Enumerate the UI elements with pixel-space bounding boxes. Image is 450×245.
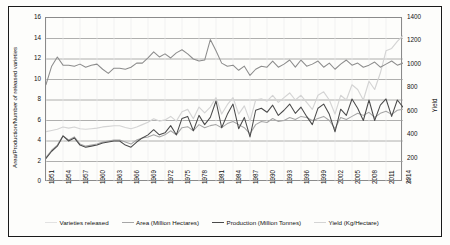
y-tick-label-right: 400 [407,130,429,137]
y-tick-label-right: 200 [407,154,429,161]
x-tick-label: 2014 [405,170,412,184]
y-axis-label-right: Yield [428,75,442,135]
legend-label: Area (Million Hectares) [136,220,199,226]
series-line [46,40,403,85]
y-tick-label-left: 2 [24,157,41,164]
legend-item[interactable]: Yield (Kg/Hectare) [314,220,379,226]
y-tick-label-left: 14 [24,34,41,41]
legend-item[interactable]: Area (Million Hectares) [122,220,199,226]
chart-legend: Varieties releasedArea (Million Hectares… [45,216,415,230]
legend-label: Production (Million Tonnes) [227,220,302,226]
y-tick-label-right: 1200 [407,36,429,43]
y-tick-label-right: 1000 [407,60,429,67]
legend-item[interactable]: Varieties released [45,220,109,226]
y-tick-label-left: 0 [24,177,41,184]
plot-svg [46,18,403,182]
y-tick-label-right: 800 [407,83,429,90]
y-tick-label-left: 16 [24,13,41,20]
y-tick-label-right: 600 [407,107,429,114]
legend-line-icon [45,222,57,223]
plot-area [45,17,402,181]
y-tick-label-left: 6 [24,116,41,123]
series-line [46,99,403,158]
legend-item[interactable]: Production (Million Tonnes) [212,220,301,226]
y-axis-label-right-text: Yield [431,98,438,112]
y-axis-label-left-text: Area/Production/Number of released varie… [11,47,18,168]
legend-line-icon [122,222,134,223]
legend-line-icon [314,222,326,223]
y-tick-label-right: 1400 [407,13,429,20]
y-tick-label-left: 12 [24,54,41,61]
y-tick-label-left: 4 [24,136,41,143]
legend-line-icon [212,222,224,223]
series-line [46,109,403,157]
chart-figure: Area/Production/Number of released varie… [0,0,450,245]
y-axis-label-left: Area/Production/Number of released varie… [6,30,22,185]
legend-label: Yield (Kg/Hectare) [329,220,379,226]
y-tick-label-left: 10 [24,75,41,82]
y-tick-label-left: 8 [24,95,41,102]
legend-label: Varieties released [60,220,109,226]
